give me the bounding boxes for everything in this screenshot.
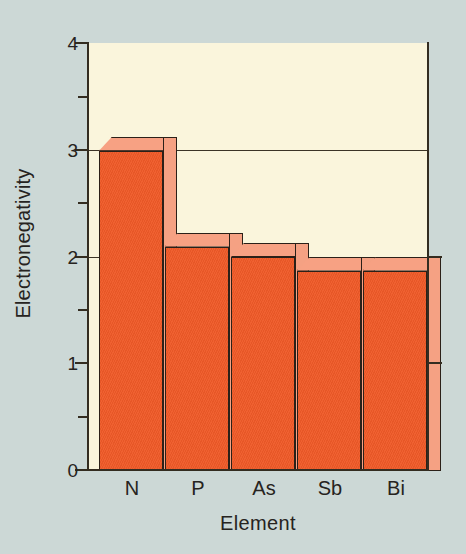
chart-figure: 4 3 2 1 0 N P As Sb Bi Electronegativity…	[0, 0, 466, 554]
y-tick-label-1: 1	[52, 354, 78, 373]
y-tick-0p5	[78, 416, 88, 418]
bar-Bi-front-face	[363, 271, 427, 471]
y-tick-right-1	[429, 362, 442, 364]
x-axis-title: Element	[88, 512, 428, 535]
y-tick-3p5	[78, 96, 88, 98]
y-tick-label-0: 0	[52, 461, 78, 480]
x-tick-label-Bi: Bi	[363, 477, 429, 500]
bar-Sb-front-face	[297, 271, 361, 471]
y-tick-label-3: 3	[52, 141, 78, 160]
y-tick-label-2: 2	[52, 248, 78, 267]
x-tick-label-N: N	[99, 477, 165, 500]
y-tick-label-group: 4 3 2 1 0	[46, 0, 78, 554]
y-axis-title: Electronegativity	[12, 129, 35, 359]
y-tick-label-4: 4	[52, 34, 78, 53]
bar-N-front-face	[99, 151, 163, 471]
x-tick-label-P: P	[165, 477, 231, 500]
x-tick-label-Sb: Sb	[297, 477, 363, 500]
x-axis-line	[87, 469, 429, 471]
y-tick-1p5	[78, 309, 88, 311]
y-tick-2p5	[78, 202, 88, 204]
plot-area	[88, 43, 428, 470]
y-tick-right-2	[429, 256, 442, 258]
x-tick-label-As: As	[231, 477, 297, 500]
bar-P-front-face	[165, 247, 229, 471]
bar-As-front-face	[231, 257, 295, 471]
